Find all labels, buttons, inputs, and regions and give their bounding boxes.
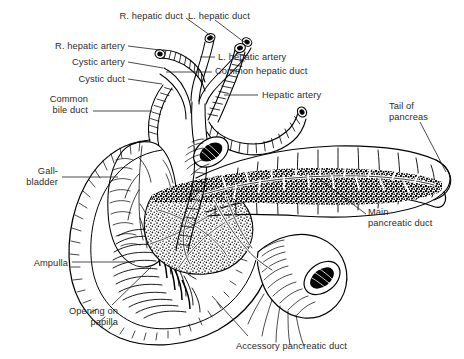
leader-r-hepatic-artery [128,46,160,50]
label-tail-of-pancreas: Tail of pancreas [389,101,428,122]
cystic-artery-icon [160,68,191,119]
cystic-duct-icon [149,85,174,147]
leader-opening-on-papilla [112,267,151,305]
label-ampulla: Ampulla [34,258,68,269]
common-hepatic-duct-icon [192,102,194,144]
label-cystic-artery: Cystic artery [72,57,125,68]
label-accessory-pancreatic-duct: Accessory pancreatic duct [236,341,347,352]
label-cystic-duct: Cystic duct [78,74,125,85]
label-r-hepatic-duct: R. hepatic duct [119,11,183,22]
leader-tail-of-pancreas [420,122,446,172]
label-l-hepatic-duct: L. hepatic duct [188,11,250,22]
jejunum-cut-end-icon [248,234,347,346]
leader-cystic-artery [128,62,163,68]
label-common-hepatic-duct: Common hepatic duct [215,66,307,77]
anatomy-figure: R. hepatic ductL. hepatic ductR. hepatic… [0,0,464,359]
leader-cystic-duct [128,79,162,84]
label-hepatic-artery: Hepatic artery [262,90,321,101]
label-r-hepatic-artery: R. hepatic artery [55,41,125,52]
leader-l-hepatic-duct [215,20,244,42]
label-common-bile-duct: Common bile duct [50,94,88,115]
label-main-pancreatic-duct: Main pancreatic duct [368,207,433,228]
label-gall-bladder: Gall- bladder [26,166,58,187]
label-opening-on-papilla: Opening on papilla [69,306,118,327]
duodenum-cut-end-upper-icon [185,131,234,175]
label-l-hepatic-artery: L. hepatic artery [218,52,286,63]
